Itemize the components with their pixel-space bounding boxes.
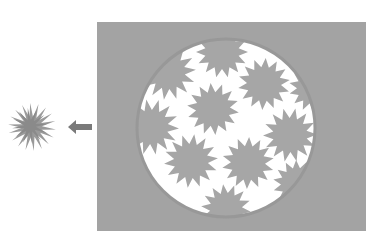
diagram-svg — [0, 0, 382, 251]
diagram-canvas — [0, 0, 382, 251]
extracted-particle-icon — [8, 103, 56, 151]
left-arrow-icon — [68, 120, 92, 134]
